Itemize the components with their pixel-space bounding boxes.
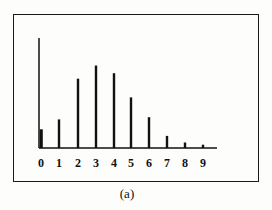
bar-5 [130,97,132,148]
bar-1 [58,119,60,148]
x-tick-label: 7 [164,156,170,170]
x-tick-label: 5 [128,156,134,170]
bar-3 [95,66,97,149]
bar-0 [40,129,43,148]
bar-6 [148,117,150,148]
bar-chart: 0123456789 [0,0,272,210]
x-tick-label: 2 [75,156,81,170]
x-tick-label: 1 [56,156,62,170]
x-tick-label: 0 [38,156,44,170]
bar-7 [166,136,168,148]
bar-9 [202,145,204,148]
bars [40,66,204,149]
x-tick-label: 4 [111,156,117,170]
x-tick-labels: 0123456789 [38,156,206,170]
x-tick-label: 3 [93,156,99,170]
x-tick-label: 8 [182,156,188,170]
figure-caption: (a) [0,186,254,202]
bar-2 [77,79,79,148]
bar-4 [113,73,115,148]
x-tick-label: 9 [200,156,206,170]
x-tick-label: 6 [146,156,152,170]
bar-8 [184,143,186,149]
